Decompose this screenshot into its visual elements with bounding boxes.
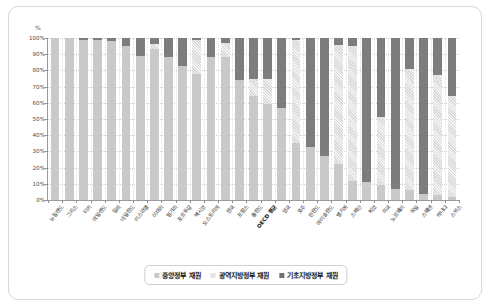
bar-segment-central	[93, 40, 102, 200]
bar-slot	[218, 38, 232, 200]
bar-segment-local	[249, 38, 258, 79]
legend-item-regional[interactable]: 광역지방정부 재원	[211, 270, 269, 280]
legend-item-local[interactable]: 기초지방정부 재원	[279, 270, 337, 280]
bar-segment-central	[405, 190, 414, 200]
y-axis-tick-label: 100%	[29, 35, 45, 41]
y-axis-tick-label: 0%	[36, 197, 45, 203]
bar-slot	[346, 38, 360, 200]
stacked-bar[interactable]	[51, 38, 60, 200]
stacked-bar[interactable]	[178, 38, 187, 200]
bar-slot	[176, 38, 190, 200]
stacked-bar[interactable]	[348, 38, 357, 200]
stacked-bar[interactable]	[207, 38, 216, 200]
stacked-bar[interactable]	[306, 38, 315, 200]
bar-slot	[445, 38, 459, 200]
stacked-bar[interactable]	[65, 38, 74, 200]
bar-segment-central	[419, 194, 428, 200]
x-axis-tickmark	[346, 200, 347, 203]
bar-slot	[246, 38, 260, 200]
bar-segment-central	[277, 108, 286, 200]
bar-slot	[147, 38, 161, 200]
stacked-bar[interactable]	[391, 38, 400, 200]
bar-segment-regional	[377, 117, 386, 185]
bar-segment-regional	[221, 43, 230, 58]
bar-segment-central	[377, 185, 386, 200]
y-axis-unit-label: %	[35, 24, 41, 31]
stacked-bar[interactable]	[320, 38, 329, 200]
legend-label-central: 중앙정부 재원	[162, 270, 200, 280]
bar-slot	[317, 38, 331, 200]
x-axis-tickmark	[374, 200, 375, 203]
chart-card: % 0%10%20%30%40%50%60%70%80%90%100% 뉴질랜드…	[8, 6, 482, 300]
bar-segment-central	[448, 197, 457, 200]
stacked-bar[interactable]	[277, 38, 286, 200]
bar-slot	[91, 38, 105, 200]
stacked-bar[interactable]	[448, 38, 457, 200]
bar-segment-local	[377, 38, 386, 117]
bar-segment-central	[192, 74, 201, 200]
bar-segment-local	[178, 38, 187, 66]
bar-segment-regional	[192, 40, 201, 74]
bar-slot	[331, 38, 345, 200]
bar-slot	[402, 38, 416, 200]
stacked-bar[interactable]	[235, 38, 244, 200]
legend-label-local: 기초지방정부 재원	[287, 270, 337, 280]
bar-segment-central	[136, 56, 145, 200]
stacked-bar[interactable]	[150, 38, 159, 200]
bar-segment-central	[107, 41, 116, 200]
x-axis-tickmark	[218, 200, 219, 203]
y-axis-tick-label: 40%	[33, 132, 45, 138]
stacked-bar[interactable]	[419, 38, 428, 200]
bar-segment-central	[348, 181, 357, 200]
bar-segment-central	[221, 57, 230, 200]
x-axis-tickmark	[416, 200, 417, 203]
bar-segment-local	[263, 38, 272, 79]
bar-segment-central	[249, 96, 258, 200]
bar-segment-central	[150, 49, 159, 200]
stacked-bar[interactable]	[249, 38, 258, 200]
x-axis-tickmark	[91, 200, 92, 203]
stacked-bar[interactable]	[405, 38, 414, 200]
stacked-bar[interactable]	[221, 38, 230, 200]
bar-slot	[289, 38, 303, 200]
stacked-bar[interactable]	[292, 38, 301, 200]
stacked-bar[interactable]	[79, 38, 88, 200]
bar-slot	[232, 38, 246, 200]
bar-segment-local	[419, 38, 428, 194]
stacked-bar[interactable]	[377, 38, 386, 200]
stacked-bar[interactable]	[362, 38, 371, 200]
bar-segment-central	[391, 189, 400, 200]
bar-slot	[76, 38, 90, 200]
bar-segment-local	[362, 38, 371, 182]
bar-slot	[303, 38, 317, 200]
legend-item-central[interactable]: 중앙정부 재원	[154, 270, 200, 280]
x-axis-tickmark	[275, 200, 276, 203]
x-axis-tickmark	[176, 200, 177, 203]
bar-segment-central	[122, 46, 131, 200]
x-axis-tickmark	[133, 200, 134, 203]
x-axis-label: 벨기에	[334, 203, 349, 220]
chart-legend: 중앙정부 재원 광역지방정부 재원 기초지방정부 재원	[144, 265, 347, 285]
bar-segment-regional	[433, 75, 442, 195]
stacked-bar[interactable]	[136, 38, 145, 200]
bar-segment-local	[348, 38, 357, 46]
bar-segment-central	[263, 104, 272, 200]
x-axis-tickmark	[246, 200, 247, 203]
bar-slot	[133, 38, 147, 200]
stacked-bar[interactable]	[263, 38, 272, 200]
stacked-bar[interactable]	[122, 38, 131, 200]
stacked-bar[interactable]	[334, 38, 343, 200]
stacked-bar[interactable]	[433, 38, 442, 200]
x-axis-tickmark	[388, 200, 389, 203]
bar-segment-central	[306, 147, 315, 200]
bar-slot	[190, 38, 204, 200]
bar-slot	[204, 38, 218, 200]
x-axis-tickmark	[76, 200, 77, 203]
stacked-bar[interactable]	[164, 38, 173, 200]
stacked-bar[interactable]	[107, 38, 116, 200]
stacked-bar[interactable]	[192, 38, 201, 200]
stacked-bar[interactable]	[93, 38, 102, 200]
bar-slot	[275, 38, 289, 200]
y-axis-tick-label: 50%	[33, 116, 45, 122]
bar-segment-local	[164, 38, 173, 57]
